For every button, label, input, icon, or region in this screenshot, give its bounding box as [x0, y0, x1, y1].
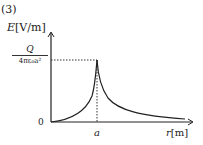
field-curve-inside: [51, 60, 97, 122]
electric-field-graph: [0, 0, 203, 145]
field-curve-outside: [97, 60, 185, 119]
